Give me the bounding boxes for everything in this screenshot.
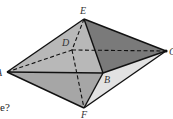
vertex-label-d: D [62,38,69,48]
vertex-label-c: C [169,47,173,57]
vertex-label-a: A [0,68,2,78]
question-text-fragment: e? [0,102,10,113]
vertex-label-e: E [80,6,86,16]
vertex-label-b: B [104,75,110,85]
solid-diagram [0,0,173,119]
vertex-label-f: F [81,110,87,119]
